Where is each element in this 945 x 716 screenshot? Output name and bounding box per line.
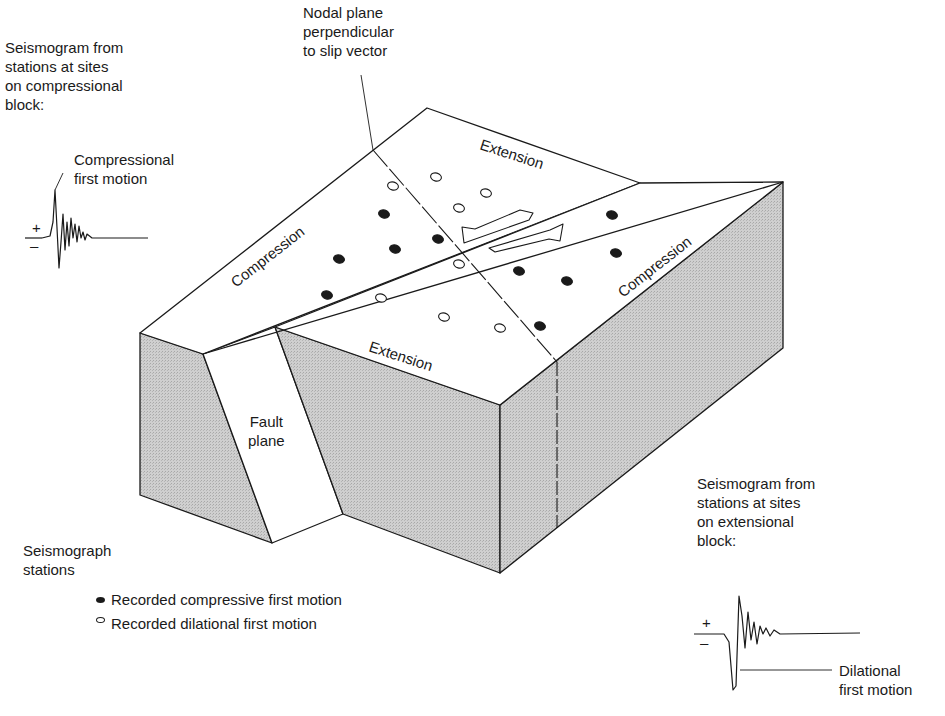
- compressional-seismogram-caption: Seismogram from stations at sites on com…: [5, 38, 123, 114]
- extensional-seismogram-caption: Seismogram from stations at sites on ext…: [697, 474, 815, 550]
- legend-item-compressive: Recorded compressive first motion: [96, 591, 342, 609]
- nodal-plane-leader: [361, 75, 373, 150]
- minus-sign-left: –: [30, 237, 39, 254]
- compressional-first-motion-label: Compressional first motion: [74, 150, 174, 188]
- dilational-first-motion-label: Dilational first motion: [839, 661, 912, 699]
- compressional-leader: [55, 173, 63, 190]
- plus-sign-left: +: [32, 219, 41, 236]
- dilational-waveform: [694, 596, 860, 690]
- legend-label-dilational: Recorded dilational first motion: [111, 615, 317, 633]
- plus-sign-right: +: [702, 614, 711, 631]
- nodal-plane-label: Nodal plane perpendicular to slip vector: [303, 3, 394, 60]
- legend-item-dilational: Recorded dilational first motion: [96, 615, 317, 633]
- open-ellipse-icon: [96, 617, 105, 623]
- filled-ellipse-icon: [96, 597, 105, 603]
- legend-title: Seismograph stations: [23, 541, 111, 579]
- dilational-seismogram: [694, 596, 860, 690]
- minus-sign-right: –: [700, 634, 709, 651]
- legend-label-compressive: Recorded compressive first motion: [111, 591, 342, 609]
- fault-plane-label: Fault plane: [248, 412, 285, 450]
- compressional-waveform: [42, 190, 148, 268]
